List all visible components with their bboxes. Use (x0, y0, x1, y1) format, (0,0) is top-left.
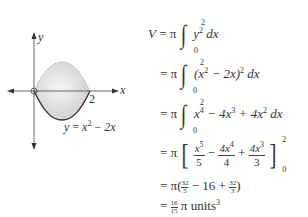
f3-exp: 3 (260, 140, 264, 149)
derivation-line-2: = π ∫ 2 0 (x2 − 2x)2 dx (160, 62, 260, 88)
op-plus: + (238, 145, 245, 160)
right-bracket: ] (270, 139, 277, 169)
graph-figure (0, 0, 140, 217)
integrand-open: (x (194, 66, 204, 81)
den: 3 (231, 187, 235, 195)
integrand-exp: 2 (199, 26, 203, 35)
y-axis-down-arrow-icon (32, 143, 37, 150)
integrand-exp2: 2 (240, 66, 244, 75)
op-minus: − (208, 145, 215, 160)
f1-den: 5 (194, 156, 205, 168)
equals-pi-open: = π( (160, 178, 181, 193)
x-axis-left-arrow-icon (7, 89, 14, 94)
integral-sign: ∫ (181, 62, 186, 88)
curve-label-term: 2x (104, 120, 115, 134)
dx: dx (270, 106, 282, 121)
fraction-2: 4x44 (218, 141, 234, 168)
equals-pi: = π (160, 106, 177, 121)
equals-pi: = π (160, 145, 177, 160)
lower-limit: 0 (193, 126, 197, 135)
left-bracket: [ (182, 139, 189, 169)
curve-label-minus: − (94, 120, 101, 134)
eval-lower: 0 (282, 165, 286, 174)
curve-label-lhs: y (64, 120, 69, 134)
curve-label-eq: = (72, 120, 79, 134)
term-2: − 4x (204, 106, 232, 121)
middle-terms: − 16 + (188, 178, 229, 193)
den: 15 (171, 207, 178, 215)
equals-pi: = π (159, 26, 176, 41)
tick-label-2: 2 (89, 92, 95, 107)
derivation-line-5: = π(325 − 16 + 323) (160, 178, 241, 195)
integral-sign: ∫ (181, 102, 186, 128)
eval-upper: 2 (282, 135, 286, 144)
derivation-line-3: = π ∫ 2 0 x4 − 4x3 + 4x2 dx (160, 102, 282, 128)
fraction-16-15: 1615 (171, 200, 178, 215)
den: 5 (183, 187, 187, 195)
lower-limit: 0 (194, 46, 198, 55)
f2-den: 4 (218, 156, 234, 168)
equals-pi: = π (160, 66, 177, 81)
fraction-3: 4x33 (249, 141, 265, 168)
f2-exp: 4 (230, 140, 234, 149)
fraction-1: x55 (194, 141, 205, 168)
result-units: π units (181, 198, 216, 213)
upper-limit: 2 (200, 58, 204, 67)
upper-limit: 2 (201, 18, 205, 27)
x-axis-right-arrow-icon (112, 89, 119, 94)
f3-den: 3 (249, 156, 265, 168)
close-paren: ) (236, 178, 240, 193)
curve-label: y = x2 − 2x (64, 119, 116, 135)
curve-label-exp: 2 (87, 119, 91, 128)
dx: dx (247, 66, 259, 81)
term-3: + 4x (235, 106, 263, 121)
units-exp: 3 (216, 198, 220, 207)
derivation-line-1: V = π ∫ 2 0 y2 dx (148, 22, 219, 48)
y-axis-up-arrow-icon (32, 32, 37, 39)
equals: = (160, 198, 167, 213)
lower-limit: 0 (193, 86, 197, 95)
integrand-mid: − 2x) (208, 66, 240, 81)
upper-limit: 2 (200, 98, 204, 107)
integral-sign: ∫ (181, 22, 186, 48)
volume-symbol: V (148, 26, 156, 41)
dx: dx (206, 26, 218, 41)
x-axis-label: x (120, 83, 125, 98)
f1-exp: 5 (200, 140, 204, 149)
derivation-line-6: = 1615 π units3 (160, 198, 220, 215)
f3-num: 4x (250, 142, 260, 154)
f2-num: 4x (219, 142, 229, 154)
exp-3: 2 (263, 106, 267, 115)
derivation-line-4: = π [ x55 − 4x44 + 4x33 ] 2 0 (160, 139, 278, 169)
y-axis-label: y (38, 30, 43, 45)
